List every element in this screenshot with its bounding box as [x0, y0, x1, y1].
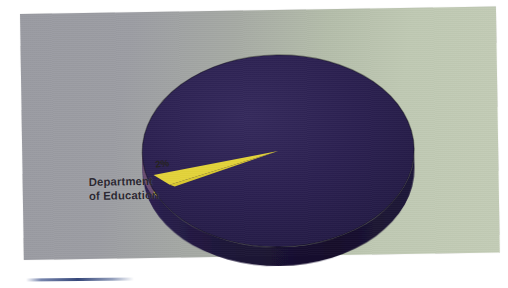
callout-label-line-2: of Education [89, 188, 193, 204]
pie-chart: 2% Department of Education [20, 7, 500, 260]
slide-panel: 2% Department of Education [20, 7, 500, 260]
pie-chart-graphic [20, 7, 500, 260]
callout-label: Department of Education [89, 174, 193, 203]
slice-percent-label: 2% [155, 157, 170, 170]
bottom-accent-rule [26, 278, 134, 282]
